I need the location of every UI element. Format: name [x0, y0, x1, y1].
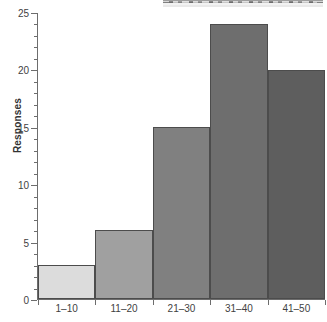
clipped-scan-artifact — [163, 0, 323, 7]
plot-area: 0510152025 — [37, 13, 325, 300]
y-axis-tick-minor — [34, 151, 37, 152]
y-axis-tick-major — [31, 13, 37, 14]
y-axis-tick-minor — [34, 82, 37, 83]
y-axis-tick-minor — [34, 277, 37, 278]
bar — [268, 70, 325, 299]
y-axis-tick-minor — [34, 24, 37, 25]
y-axis-tick-minor — [34, 208, 37, 209]
y-axis-tick-major — [31, 300, 37, 301]
y-axis-tick-label: 15 — [18, 122, 29, 133]
x-axis-tick-label: 11–20 — [111, 303, 138, 314]
y-axis-tick-minor — [34, 162, 37, 163]
y-axis-tick-major — [31, 70, 37, 71]
y-axis-tick-label: 0 — [23, 295, 29, 306]
y-axis-tick-minor — [34, 105, 37, 106]
x-axis-tick-label: 1–10 — [56, 303, 78, 314]
y-axis-tick-minor — [34, 174, 37, 175]
y-axis-tick-major — [31, 128, 37, 129]
y-axis-tick-minor — [34, 36, 37, 37]
y-axis-tick-minor — [34, 59, 37, 60]
y-axis-tick-label: 5 — [23, 237, 29, 248]
x-axis-tick-label: 31–40 — [225, 303, 253, 314]
y-axis-tick-minor — [34, 254, 37, 255]
bar — [153, 127, 210, 299]
y-axis-tick-minor — [34, 47, 37, 48]
bar — [38, 265, 95, 299]
y-axis-tick-major — [31, 243, 37, 244]
x-axis-tick-labels: 1–1011–2021–3031–4041–50 — [38, 303, 325, 319]
chart-container: Responses 0510152025 1–1011–2021–3031–40… — [0, 0, 327, 322]
bar — [95, 230, 152, 299]
bar — [210, 24, 267, 299]
y-axis-tick-major — [31, 185, 37, 186]
y-axis-tick-minor — [34, 289, 37, 290]
y-axis-tick-minor — [34, 93, 37, 94]
y-axis-tick-minor — [34, 220, 37, 221]
y-axis-tick-label: 20 — [18, 65, 29, 76]
y-axis-tick-minor — [34, 197, 37, 198]
x-axis-line — [37, 299, 325, 300]
y-axis-tick-label: 25 — [18, 8, 29, 19]
bar-series — [38, 13, 325, 299]
y-axis-tick-minor — [34, 266, 37, 267]
y-axis-tick-minor — [34, 116, 37, 117]
x-axis-tick-label: 21–30 — [168, 303, 196, 314]
x-axis-tick — [325, 300, 326, 305]
y-axis-tick-label: 10 — [18, 180, 29, 191]
y-axis-tick-minor — [34, 139, 37, 140]
y-axis-tick-minor — [34, 231, 37, 232]
x-axis-tick-label: 41–50 — [282, 303, 310, 314]
